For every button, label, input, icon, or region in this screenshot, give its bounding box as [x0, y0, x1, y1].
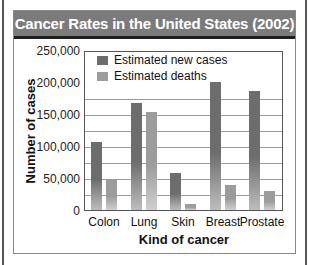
x-tick-breast: Breast	[206, 215, 241, 229]
outer-frame-left	[2, 0, 4, 265]
y-tick-100000: 100,000	[20, 140, 80, 154]
y-tick-50000: 50,000	[20, 172, 80, 186]
legend-label-deaths: Estimated deaths	[114, 69, 207, 83]
bar-prostate-deaths	[264, 191, 275, 210]
y-tick-0: 0	[20, 204, 80, 218]
x-tick-lung: Lung	[131, 215, 158, 229]
x-tick-prostate: Prostate	[240, 215, 285, 229]
bar-breast-deaths	[225, 185, 236, 210]
x-tick-colon: Colon	[88, 215, 119, 229]
legend-swatch-deaths	[97, 72, 108, 81]
bar-lung-new-cases	[131, 103, 142, 210]
legend-item-deaths: Estimated deaths	[85, 68, 282, 84]
plot-area: Estimated new cases Estimated deaths	[84, 51, 283, 211]
legend-item-new-cases: Estimated new cases	[85, 52, 282, 68]
y-axis-label: Number of cases	[23, 79, 38, 184]
x-tick-skin: Skin	[171, 215, 194, 229]
bar-skin-deaths	[185, 204, 196, 210]
bar-prostate-new-cases	[249, 91, 260, 210]
bar-lung-deaths	[146, 112, 157, 210]
bar-colon-deaths	[106, 180, 117, 210]
y-tick-200000: 200,000	[20, 76, 80, 90]
bar-breast-new-cases	[210, 82, 221, 210]
legend-label-new-cases: Estimated new cases	[114, 53, 227, 67]
y-tick-150000: 150,000	[20, 108, 80, 122]
x-axis-label: Kind of cancer	[139, 232, 229, 247]
bar-skin-new-cases	[170, 173, 181, 210]
chart-title: Cancer Rates in the United States (2002)	[14, 11, 295, 39]
bar-colon-new-cases	[91, 142, 102, 210]
outer-frame-right	[305, 0, 307, 265]
legend-swatch-new-cases	[97, 56, 108, 65]
y-tick-250000: 250,000	[20, 44, 80, 58]
